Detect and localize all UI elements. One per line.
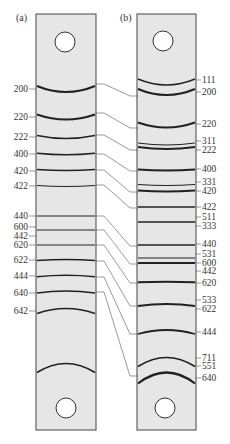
index-label-a: 622	[14, 255, 29, 265]
panel-label-b: (b)	[120, 12, 132, 24]
index-label-b: 111	[202, 75, 216, 85]
index-label-b: 333	[202, 221, 217, 231]
index-label-a: 642	[14, 306, 29, 316]
index-connector-lines	[96, 84, 138, 376]
index-label-a: 220	[14, 112, 29, 122]
strip-a-top-hole	[55, 32, 75, 52]
connector-6	[96, 216, 138, 246]
strip-b-top-hole	[153, 31, 173, 51]
index-label-b: 222	[202, 145, 217, 155]
strip-a-bottom-hole	[56, 398, 76, 418]
index-label-a: 422	[14, 181, 29, 191]
index-label-b: 444	[202, 327, 217, 337]
index-label-a: 420	[14, 166, 29, 176]
index-label-a: 222	[14, 132, 29, 142]
index-label-b: 440	[202, 239, 217, 249]
index-label-a: 200	[14, 84, 29, 94]
diffraction-line-b-5	[138, 170, 195, 171]
connector-4	[96, 170, 138, 192]
film-strip-a	[36, 14, 96, 430]
index-label-b: 200	[202, 87, 217, 97]
index-label-a: 444	[14, 271, 29, 281]
index-label-b: 551	[202, 361, 217, 371]
index-label-a: 400	[14, 149, 29, 159]
index-label-b: 620	[202, 278, 217, 288]
index-label-b: 640	[202, 373, 217, 383]
connector-1	[96, 113, 138, 128]
index-label-b: 420	[202, 186, 217, 196]
film-strip-b	[137, 14, 196, 430]
connector-9	[96, 261, 138, 306]
strip-b-bottom-hole	[155, 398, 175, 418]
strip-b-index-labels: 1112002203112224003314204225113334405316…	[196, 75, 217, 383]
index-label-b: 422	[202, 202, 217, 212]
connector-2	[96, 135, 138, 150]
index-label-b: 400	[202, 164, 217, 174]
panel-label-a: (a)	[16, 12, 27, 24]
diffraction-line-b-7	[138, 191, 195, 192]
diffraction-comparison-diagram: (a) (b) 20022022240042042244060044262062…	[0, 0, 230, 444]
connector-7	[96, 230, 138, 264]
connector-5	[96, 185, 138, 208]
index-label-a: 620	[14, 240, 29, 250]
strip-a-index-labels: 2002202224004204224406004426206224446406…	[14, 84, 36, 316]
index-label-b: 442	[202, 266, 217, 276]
connector-3	[96, 154, 138, 171]
connector-10	[96, 277, 138, 334]
diffraction-line-b-13	[138, 282, 195, 283]
index-label-a: 440	[14, 211, 29, 221]
index-label-b: 622	[202, 304, 217, 314]
index-label-b: 220	[202, 119, 217, 129]
index-label-a: 640	[14, 288, 29, 298]
connector-0	[96, 84, 138, 96]
